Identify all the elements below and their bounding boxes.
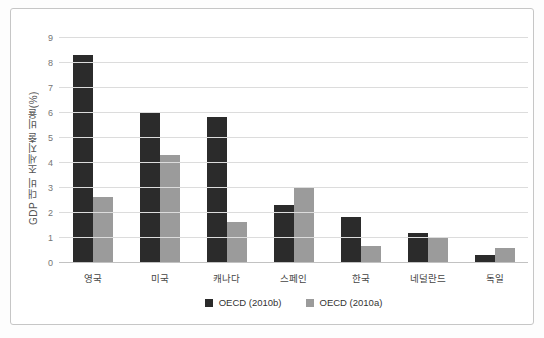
gridline-y1	[59, 237, 528, 238]
legend-item: OECD (2010b)	[205, 297, 282, 308]
legend-swatch-icon	[306, 299, 314, 307]
legend: OECD (2010b)OECD (2010a)	[59, 297, 528, 308]
chart-frame: GDP 대비 조세지출 비율(%) 0123456789 영국미국캐나다스페인한…	[10, 8, 534, 325]
y-tick-label-0: 0	[33, 258, 53, 268]
bar-oecd-2010b	[475, 255, 495, 263]
bar-oecd-2010b	[274, 205, 294, 263]
bar-group-5	[327, 37, 394, 262]
y-tick-label-8: 8	[33, 58, 53, 68]
bar-group-1	[59, 37, 126, 262]
bar-group-2	[126, 37, 193, 262]
gridline-y2	[59, 212, 528, 213]
bar-oecd-2010b	[341, 217, 361, 262]
bar-oecd-2010a	[294, 187, 314, 262]
x-tick-label-6: 네덜란드	[394, 271, 461, 285]
x-tick-label-2: 미국	[126, 271, 193, 285]
x-tick-label-3: 캐나다	[193, 271, 260, 285]
y-tick-label-7: 7	[33, 83, 53, 93]
y-tick-label-5: 5	[33, 133, 53, 143]
x-tick-label-5: 한국	[327, 271, 394, 285]
bar-group-6	[394, 37, 461, 262]
bar-group-3	[193, 37, 260, 262]
gridline-y8	[59, 62, 528, 63]
legend-item: OECD (2010a)	[306, 297, 383, 308]
gridline-y6	[59, 112, 528, 113]
y-tick-label-6: 6	[33, 108, 53, 118]
gridline-y9	[59, 37, 528, 38]
y-tick-label-9: 9	[33, 33, 53, 43]
x-axis-labels: 영국미국캐나다스페인한국네덜란드독일	[59, 271, 528, 285]
bar-oecd-2010a	[361, 246, 381, 262]
bar-groups	[59, 37, 528, 262]
bar-oecd-2010a	[495, 248, 515, 262]
gridline-y7	[59, 87, 528, 88]
legend-swatch-icon	[205, 299, 213, 307]
y-tick-label-2: 2	[33, 208, 53, 218]
bar-group-7	[461, 37, 528, 262]
bar-oecd-2010b	[207, 117, 227, 262]
y-tick-label-3: 3	[33, 183, 53, 193]
x-tick-label-1: 영국	[59, 271, 126, 285]
bar-group-4	[260, 37, 327, 262]
x-tick-label-4: 스페인	[260, 271, 327, 285]
legend-label: OECD (2010b)	[219, 297, 282, 308]
plot-area: 0123456789	[59, 38, 528, 263]
bar-oecd-2010a	[428, 238, 448, 262]
gridline-y3	[59, 187, 528, 188]
gridline-y0	[59, 262, 528, 263]
gridline-y4	[59, 162, 528, 163]
y-tick-label-1: 1	[33, 233, 53, 243]
legend-label: OECD (2010a)	[320, 297, 383, 308]
bar-oecd-2010a	[227, 222, 247, 262]
gridline-y5	[59, 137, 528, 138]
bar-oecd-2010a	[93, 197, 113, 262]
bar-oecd-2010b	[73, 55, 93, 263]
y-tick-label-4: 4	[33, 158, 53, 168]
bar-oecd-2010a	[160, 155, 180, 263]
x-tick-label-7: 독일	[461, 271, 528, 285]
